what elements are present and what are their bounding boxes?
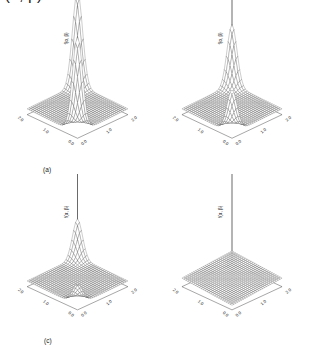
x-tick-label: 2.0 <box>130 115 138 123</box>
y-tick-label: 1.0 <box>42 127 50 135</box>
y-tick-label: 0.0 <box>67 139 75 147</box>
surface-plot-figure: 0.000.60f(α, β)2.02.01.01.00.00.0 f(α, β… <box>0 0 309 347</box>
y-tick-label: 1.0 <box>196 298 204 306</box>
mesh-surface <box>181 251 281 305</box>
panel-d-surface-svg: 0.000.60f(α, β)2.02.01.01.00.00.0 <box>155 174 309 346</box>
panel-a-surface-svg: 0.000.60f(α, β)2.02.01.01.00.00.0 f(α, β… <box>0 0 155 175</box>
y-tick-label: 2.0 <box>171 287 179 295</box>
x-tick-label: 0.0 <box>234 309 242 317</box>
z-axis-title: f(α, β) <box>64 32 69 45</box>
panel-b-surface-svg: 0.000.60f(α, β)2.02.01.01.00.00.0 <box>155 0 309 175</box>
panel-a-plot: 0.000.60f(α, β)2.02.01.01.00.00.0 f(α, β… <box>0 0 155 174</box>
y-tick-label: 1.0 <box>196 127 204 135</box>
y-tick-label: 2.0 <box>17 115 25 123</box>
panel-c-caption: (c) <box>44 337 52 344</box>
z-axis-title: f(α, β) <box>218 205 223 218</box>
x-tick-label: 2.0 <box>130 286 138 294</box>
y-tick-label: 0.0 <box>221 310 229 318</box>
x-tick-label: 1.0 <box>105 126 113 134</box>
x-tick-label: 1.0 <box>259 126 267 134</box>
panel-a-caption: (a) <box>43 166 51 173</box>
mesh-surface <box>27 0 128 125</box>
panel-b: 0.000.60f(α, β)2.02.01.01.00.00.0 (b) <box>155 0 310 174</box>
x-tick-label: 0.0 <box>80 309 88 317</box>
panel-b-plot: 0.000.60f(α, β)2.02.01.01.00.00.0 <box>155 0 310 174</box>
x-tick-label: 2.0 <box>284 115 292 123</box>
y-tick-label: 2.0 <box>17 287 25 295</box>
y-tick-label: 0.0 <box>221 139 229 147</box>
x-tick-label: 0.0 <box>80 138 88 146</box>
y-tick-label: 1.0 <box>42 298 50 306</box>
panel-d-plot: 0.000.60f(α, β)2.02.01.01.00.00.0 <box>155 174 310 347</box>
z-axis-title: f(α, β) <box>64 205 69 218</box>
y-tick-label: 2.0 <box>171 115 179 123</box>
x-tick-label: 2.0 <box>284 286 292 294</box>
z-axis-title: f(α, β) <box>218 32 223 45</box>
mesh-surface <box>181 24 281 125</box>
mesh-surface <box>27 218 128 297</box>
panel-c-surface-svg: 0.000.60f(α, β)2.02.01.01.00.00.0 <box>0 174 155 346</box>
y-tick-label: 0.0 <box>67 310 75 318</box>
x-tick-label: 1.0 <box>105 298 113 306</box>
x-tick-label: 0.0 <box>234 138 242 146</box>
panel-a-zaxis-label: f(α, β) <box>0 0 42 3</box>
x-tick-label: 1.0 <box>259 298 267 306</box>
panel-d: 0.000.60f(α, β)2.02.01.01.00.00.0 (d) <box>155 174 310 347</box>
panel-a: 0.000.60f(α, β)2.02.01.01.00.00.0 f(α, β… <box>0 0 155 174</box>
panel-c-plot: 0.000.60f(α, β)2.02.01.01.00.00.0 <box>0 174 155 347</box>
panel-c: 0.000.60f(α, β)2.02.01.01.00.00.0 (c) <box>0 174 155 347</box>
